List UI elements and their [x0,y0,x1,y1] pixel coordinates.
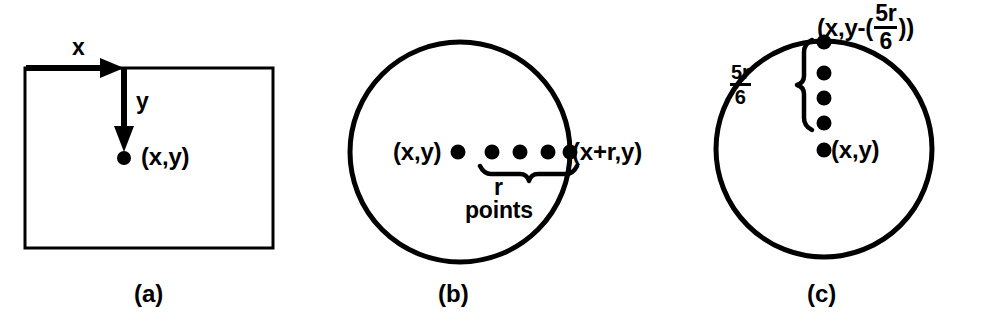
dot-1 [817,66,832,81]
figure-three-panel-diagram: x y (x,y) (a) (x,y) (x+r,y) r points (b) [0,0,989,333]
brace-label-points: points [465,199,533,222]
y-arrow-head [114,126,134,152]
panel-b: (x,y) (x+r,y) r points (b) [330,0,660,333]
center-point-label-xy: (x,y) [831,138,879,162]
dot-center [451,145,466,160]
fraction-denominator: 6 [734,86,747,107]
caption-a: (a) [134,282,163,306]
point-label-xy: (x,y) [141,145,189,169]
top-point-label: (x,y-( 5r 6 )) [817,2,914,53]
caption-c: (c) [807,282,836,306]
caption-b: (b) [438,282,469,306]
five-r-over-six-brace [797,40,812,130]
point-dot-xy [117,151,131,165]
dot-3 [541,145,556,160]
top-point-fraction: 5r 6 [874,2,897,53]
top-point-suffix: )) [898,16,914,40]
dot-2 [817,91,832,106]
y-axis-label: y [136,90,149,113]
brace-fraction: 5r 6 [730,62,751,107]
fraction-numerator: 5r [874,2,897,26]
brace-fraction-label: 5r 6 [729,62,752,107]
fraction-numerator: 5r [730,62,751,83]
top-point-prefix: (x,y-( [817,16,873,40]
dot-2 [513,145,528,160]
panel-b-graphics [330,0,660,333]
dot-center [817,143,832,158]
x-arrow-head [100,58,124,78]
panel-c: (x,y) (x,y-( 5r 6 )) 5r 6 (c) [659,0,989,333]
center-point-label-xy: (x,y) [393,140,441,164]
brace-label-r: r [494,176,503,199]
dot-3 [817,116,832,131]
panel-a: x y (x,y) (a) [0,0,330,333]
fraction-denominator: 6 [879,29,894,53]
dot-1 [485,145,500,160]
x-axis-label: x [72,36,85,59]
edge-point-label-xry: (x+r,y) [572,140,642,164]
